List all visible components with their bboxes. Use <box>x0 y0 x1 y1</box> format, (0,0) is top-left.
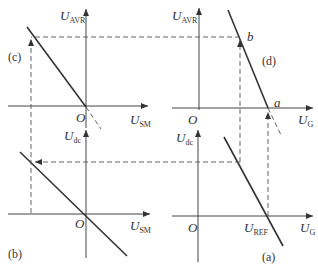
origin-label: O <box>188 220 198 235</box>
characteristic-line <box>20 152 127 256</box>
y-axis-label: Udc <box>64 128 81 145</box>
panel-tag: (d) <box>262 54 276 68</box>
x-axis-label: USM <box>130 218 151 235</box>
panel-a <box>172 130 313 262</box>
y-axis-label: Udc <box>176 130 193 147</box>
point-a-label: a <box>274 95 281 110</box>
panel-tag: (a) <box>262 250 275 264</box>
point-b-label: b <box>247 29 254 44</box>
origin-label: O <box>76 110 86 125</box>
four-quadrant-diagram: UAVR USM O (c) UAVR UG O (d) b a Udc USM… <box>0 0 318 270</box>
panel-tag: (b) <box>8 247 22 261</box>
x-axis-label: UG <box>298 112 313 129</box>
y-axis-label: UAVR <box>60 8 86 25</box>
x-axis-label: USM <box>130 112 151 129</box>
u-ref-label: UREF <box>244 220 269 237</box>
panel-b <box>8 130 150 258</box>
origin-label: O <box>188 112 198 127</box>
dashed-extension <box>86 107 101 129</box>
dashed-extension <box>268 108 281 135</box>
characteristic-line <box>27 27 86 107</box>
origin-label: O <box>75 216 85 231</box>
panel-tag: (c) <box>8 50 21 64</box>
x-axis-label: UG <box>300 220 315 237</box>
y-axis-label: UAVR <box>172 8 198 25</box>
